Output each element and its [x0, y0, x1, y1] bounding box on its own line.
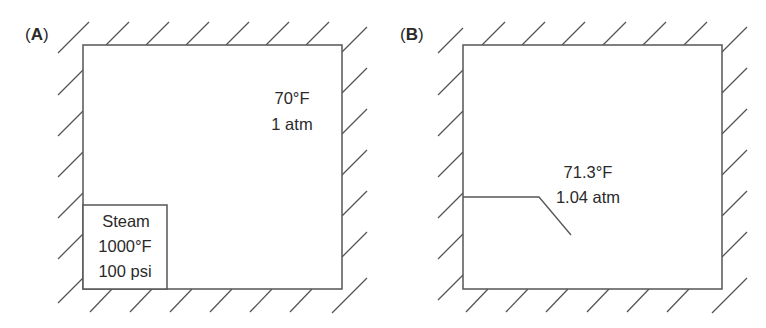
panel-a-room-pressure: 1 atm — [271, 115, 312, 133]
steam-tank-pressure: 100 psi — [98, 262, 151, 280]
panel-b-room-temperature: 71.3°F — [564, 163, 613, 181]
diagram-canvas: (A) — [0, 0, 766, 328]
panel-b-label: (B) — [400, 25, 424, 44]
steam-tank-title: Steam — [102, 212, 150, 230]
panel-a: (A) — [25, 22, 367, 313]
panel-a-label: (A) — [25, 25, 49, 44]
panel-b-room-pressure: 1.04 atm — [556, 188, 620, 206]
panel-b: (B) — [400, 22, 747, 313]
steam-tank-temperature: 1000°F — [98, 237, 151, 255]
panel-a-room-temperature: 70°F — [274, 89, 309, 107]
